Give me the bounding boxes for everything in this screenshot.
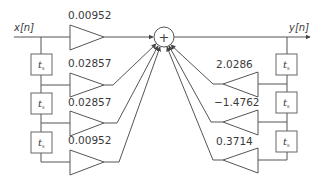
ff-gain-triangle-1 [70,73,104,97]
left-tap-3-line [41,153,70,162]
ff-gain-triangle-3 [70,150,104,175]
fb-gain-triangle-1 [223,72,258,97]
output-label: y[n] [288,22,309,33]
ff-gain-triangle-0 [70,25,104,50]
ff-line-3 [104,47,160,162]
ff-gain-triangle-2 [70,111,104,136]
fb-gain-triangle-3 [223,148,258,173]
fb-gain-label-2: −1.4762 [214,96,260,108]
ff-gain-label-0: 0.00952 [68,9,111,21]
summer-plus-icon: + [159,30,170,45]
fb-gain-label-1: 2.0286 [216,58,253,70]
ff-gain-label-1: 0.02857 [68,57,111,69]
ff-gain-label-3: 0.00952 [68,134,111,146]
ff-gain-label-2: 0.02857 [68,96,111,108]
input-label: x[n] [13,22,34,33]
right-tap-3-line [258,152,287,160]
fb-gain-label-3: 0.3714 [216,135,253,147]
filter-block-diagram: x[n] ts ts ts 0.00952 0.02857 0.02857 0.… [0,0,324,187]
fb-gain-triangle-2 [223,110,258,135]
